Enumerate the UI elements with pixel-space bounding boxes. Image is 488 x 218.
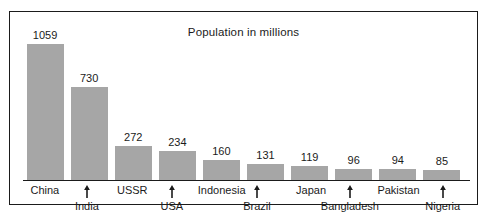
category-label-text: Nigeria — [425, 200, 460, 212]
up-arrow-icon — [439, 185, 446, 198]
bar-value-label: 131 — [256, 150, 274, 161]
category-label-text: USA — [161, 200, 184, 212]
plot-area: 1059 730 272 234 160 131 — [23, 28, 464, 181]
category-label-row-bottom: India USA Brazil Banglades — [23, 199, 464, 213]
category-label-nigeria: Nigeria — [421, 199, 464, 213]
bar-item-india[interactable]: 730 — [67, 28, 111, 181]
bar-rect[interactable] — [115, 146, 152, 181]
bar-rect[interactable] — [27, 44, 64, 181]
category-labels: China USSR Indonesia Japan Pakistan Indi… — [23, 182, 464, 216]
up-arrow-icon — [168, 185, 175, 198]
bar-value-label: 1059 — [33, 30, 57, 41]
up-arrow-icon — [254, 185, 261, 198]
bar-rect[interactable] — [71, 87, 108, 181]
bar-item-nigeria[interactable]: 85 — [420, 28, 464, 181]
bar-item-pakistan[interactable]: 94 — [376, 28, 420, 181]
bar-item-china[interactable]: 1059 — [23, 28, 67, 181]
bar-value-label: 730 — [80, 73, 98, 84]
bar-item-indonesia[interactable]: 160 — [199, 28, 243, 181]
x-axis-line — [23, 180, 470, 181]
chart-frame: Population in millions 1059 730 272 234 … — [9, 11, 478, 205]
bar-rect[interactable] — [291, 166, 328, 181]
bar-value-label: 160 — [212, 146, 230, 157]
category-label-text: Brazil — [243, 200, 271, 212]
bar-value-label: 272 — [124, 132, 142, 143]
bar-item-bangladesh[interactable]: 96 — [332, 28, 376, 181]
up-arrow-icon — [83, 185, 90, 198]
bar-item-usa[interactable]: 234 — [155, 28, 199, 181]
category-label-brazil: Brazil — [236, 199, 279, 213]
category-label-japan: Japan — [289, 183, 333, 197]
bar-value-label: 85 — [436, 156, 448, 167]
category-label-indonesia: Indonesia — [198, 183, 246, 197]
bar-value-label: 119 — [301, 152, 319, 163]
bar-rect[interactable] — [203, 160, 240, 181]
category-label-text: India — [75, 200, 99, 212]
bar-rect[interactable] — [247, 164, 284, 181]
up-arrow-icon — [346, 185, 353, 198]
bar-value-label: 234 — [168, 137, 186, 148]
bar-item-brazil[interactable]: 131 — [243, 28, 287, 181]
bar-item-japan[interactable]: 119 — [288, 28, 332, 181]
category-label-ussr: USSR — [110, 183, 154, 197]
category-label-india: India — [66, 199, 109, 213]
bar-value-label: 94 — [392, 155, 404, 166]
category-label-pakistan: Pakistan — [377, 183, 421, 197]
category-label-bangladesh: Bangladesh — [321, 199, 379, 213]
bar-value-label: 96 — [348, 155, 360, 166]
bar-rect[interactable] — [159, 151, 196, 181]
category-label-china: China — [23, 183, 67, 197]
category-label-usa: USA — [151, 199, 194, 213]
bar-series: 1059 730 272 234 160 131 — [23, 28, 464, 181]
bar-item-ussr[interactable]: 272 — [111, 28, 155, 181]
category-label-text: Bangladesh — [321, 200, 379, 212]
